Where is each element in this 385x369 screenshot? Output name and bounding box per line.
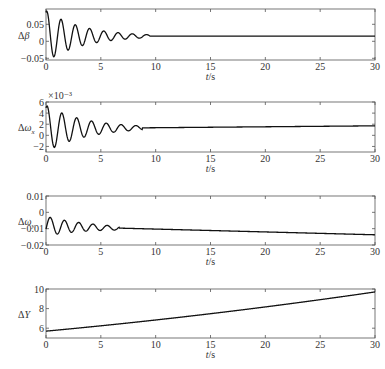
x-tick-label: 20	[260, 339, 270, 350]
panel-delta-beta: 051015202530−0.0500.05Δβt/s	[18, 9, 380, 82]
y-tick-label: −2	[33, 141, 44, 152]
y-tick-label: 6	[39, 323, 44, 334]
x-tick-label: 25	[315, 339, 325, 350]
y-tick-label: 6	[39, 97, 44, 108]
data-line-delta-y	[46, 292, 375, 331]
x-tick-label: 30	[370, 246, 380, 257]
y-tick-label: 0	[39, 207, 44, 218]
y-tick-label: 10	[34, 284, 44, 295]
x-axis-label: t/s	[206, 256, 216, 267]
x-tick-label: 20	[260, 153, 270, 164]
x-tick-label: 5	[98, 339, 103, 350]
y-tick-label: 4	[39, 108, 44, 119]
y-exponent-label: ×10⁻³	[48, 90, 72, 101]
axes-frame	[46, 9, 375, 60]
x-tick-label: 0	[44, 339, 49, 350]
data-line-delta-omega-y	[46, 217, 375, 234]
x-tick-label: 30	[370, 61, 380, 72]
y-tick-label: −0.05	[21, 53, 44, 64]
x-axis-label: t/s	[206, 163, 216, 174]
x-tick-label: 10	[151, 153, 161, 164]
x-tick-label: 25	[315, 61, 325, 72]
x-tick-label: 5	[98, 153, 103, 164]
x-tick-label: 20	[260, 246, 270, 257]
x-tick-label: 30	[370, 339, 380, 350]
x-tick-label: 10	[151, 339, 161, 350]
panel-delta-y: 0510152025306810ΔYt/s	[18, 284, 380, 361]
y-axis-label: Δωx	[18, 122, 36, 136]
y-tick-label: 0.05	[27, 19, 45, 30]
panel-delta-omega-x: 051015202530−20246×10⁻³Δωxt/s	[18, 90, 380, 174]
figure: 051015202530−0.0500.05Δβt/s051015202530−…	[0, 0, 385, 369]
x-tick-label: 20	[260, 61, 270, 72]
x-tick-label: 30	[370, 153, 380, 164]
x-tick-label: 10	[151, 246, 161, 257]
y-axis-label: ΔY	[18, 309, 31, 320]
y-tick-label: −0.02	[21, 240, 44, 251]
x-tick-label: 0	[44, 153, 49, 164]
x-tick-label: 25	[315, 246, 325, 257]
y-axis-label: Δβ	[18, 30, 29, 41]
data-line-delta-omega-x	[46, 106, 375, 147]
y-tick-label: 8	[39, 303, 44, 314]
y-tick-label: 0	[39, 36, 44, 47]
y-tick-label: 0.01	[27, 191, 45, 202]
x-tick-label: 5	[98, 61, 103, 72]
panel-delta-omega-y: 051015202530−0.02−0.0100.01Δωyt/s	[18, 191, 380, 268]
x-tick-label: 25	[315, 153, 325, 164]
y-tick-label: 2	[39, 119, 44, 130]
x-axis-label: t/s	[206, 349, 216, 360]
x-tick-label: 0	[44, 246, 49, 257]
x-axis-label: t/s	[206, 71, 216, 82]
y-tick-label: 0	[39, 130, 44, 141]
axes-frame	[46, 196, 375, 245]
x-tick-label: 10	[151, 61, 161, 72]
data-line-delta-beta	[46, 11, 375, 56]
x-tick-label: 5	[98, 246, 103, 257]
x-tick-label: 0	[44, 61, 49, 72]
